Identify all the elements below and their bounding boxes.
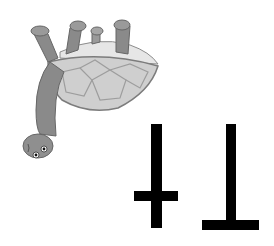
turtle-illustration [0,0,170,170]
letter-stem [226,124,236,222]
letter-crossbar [134,191,178,201]
letter-crossbar [202,220,259,230]
letter-card [0,0,274,246]
letter-stem [151,124,162,228]
